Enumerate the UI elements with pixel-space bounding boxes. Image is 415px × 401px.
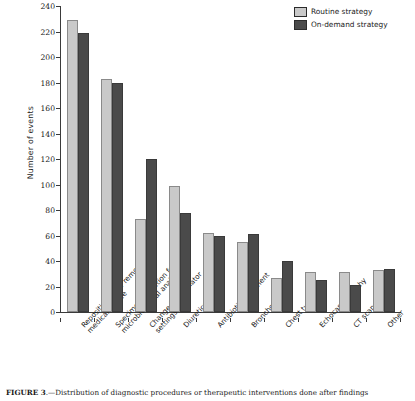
- bar-group: [373, 6, 395, 312]
- y-axis-tick-label: 40: [21, 257, 60, 266]
- y-axis-label: Number of events: [26, 106, 35, 179]
- bar-on-demand-strategy: [384, 269, 395, 312]
- bar-group: [67, 6, 89, 312]
- x-axis-tick-mark: [366, 318, 367, 322]
- x-axis-tick-mark: [128, 318, 129, 322]
- x-axis-tick-mark: [60, 318, 61, 322]
- y-axis-tick-mark: [56, 134, 60, 135]
- y-axis-tick-label: 80: [21, 206, 60, 215]
- figure-caption-prefix: FIGURE 3: [6, 388, 46, 397]
- bar-on-demand-strategy: [78, 33, 89, 312]
- bar-group: [135, 6, 157, 312]
- bar-on-demand-strategy: [146, 159, 157, 312]
- bar-routine-strategy: [305, 272, 316, 312]
- bar-on-demand-strategy: [112, 83, 123, 313]
- y-axis-tick-mark: [56, 210, 60, 211]
- bar-routine-strategy: [169, 186, 180, 312]
- bar-routine-strategy: [271, 278, 282, 312]
- y-axis-tick-label: 20: [21, 282, 60, 291]
- y-axis-tick-mark: [56, 312, 60, 313]
- y-axis-tick-mark: [56, 57, 60, 58]
- y-axis-tick-mark: [56, 159, 60, 160]
- plot-area: 020406080100120140160180200220240Reposit…: [60, 6, 400, 312]
- figure-caption: FIGURE 3.—Distribution of diagnostic pro…: [6, 388, 410, 397]
- y-axis-tick-label: 0: [21, 308, 60, 317]
- bar-routine-strategy: [135, 219, 146, 312]
- bar-routine-strategy: [203, 233, 214, 312]
- y-axis-tick-label: 100: [21, 180, 60, 189]
- figure-caption-text: .—Distribution of diagnostic procedures …: [46, 388, 368, 397]
- bar-on-demand-strategy: [282, 261, 293, 312]
- bar-group: [169, 6, 191, 312]
- y-axis-tick-label: 120: [21, 155, 60, 164]
- y-axis-tick-mark: [56, 236, 60, 237]
- y-axis-tick-mark: [56, 185, 60, 186]
- bar-on-demand-strategy: [350, 285, 361, 312]
- y-axis-tick-mark: [56, 108, 60, 109]
- y-axis-tick-mark: [56, 6, 60, 7]
- bar-routine-strategy: [373, 270, 384, 312]
- x-axis-tick-mark: [94, 318, 95, 322]
- bar-on-demand-strategy: [248, 234, 259, 312]
- x-axis-tick-mark: [230, 318, 231, 322]
- y-axis-tick-mark: [56, 261, 60, 262]
- x-axis-tick-mark: [400, 318, 401, 322]
- x-axis-tick-mark: [162, 318, 163, 322]
- bar-routine-strategy: [237, 242, 248, 312]
- y-axis-tick-label: 160: [21, 104, 60, 113]
- x-axis-tick-mark: [332, 318, 333, 322]
- x-axis-tick-mark: [196, 318, 197, 322]
- bar-routine-strategy: [101, 79, 112, 312]
- bar-group: [237, 6, 259, 312]
- bar-group: [203, 6, 225, 312]
- y-axis-tick-label: 140: [21, 129, 60, 138]
- y-axis-tick-label: 240: [21, 2, 60, 11]
- x-axis-tick-mark: [298, 318, 299, 322]
- bar-routine-strategy: [67, 20, 78, 312]
- bar-on-demand-strategy: [316, 280, 327, 312]
- bar-group: [271, 6, 293, 312]
- y-axis-tick-label: 180: [21, 78, 60, 87]
- bar-on-demand-strategy: [214, 236, 225, 313]
- bar-group: [101, 6, 123, 312]
- bar-routine-strategy: [339, 272, 350, 312]
- y-axis-tick-mark: [56, 32, 60, 33]
- y-axis-tick-label: 200: [21, 53, 60, 62]
- bar-on-demand-strategy: [180, 213, 191, 312]
- y-axis-tick-label: 60: [21, 231, 60, 240]
- x-axis-tick-mark: [264, 318, 265, 322]
- y-axis-tick-label: 220: [21, 27, 60, 36]
- bar-group: [305, 6, 327, 312]
- y-axis-tick-mark: [56, 287, 60, 288]
- bar-group: [339, 6, 361, 312]
- y-axis-tick-mark: [56, 83, 60, 84]
- figure-3-bar-chart: Routine strategy On-demand strategy Numb…: [0, 0, 415, 401]
